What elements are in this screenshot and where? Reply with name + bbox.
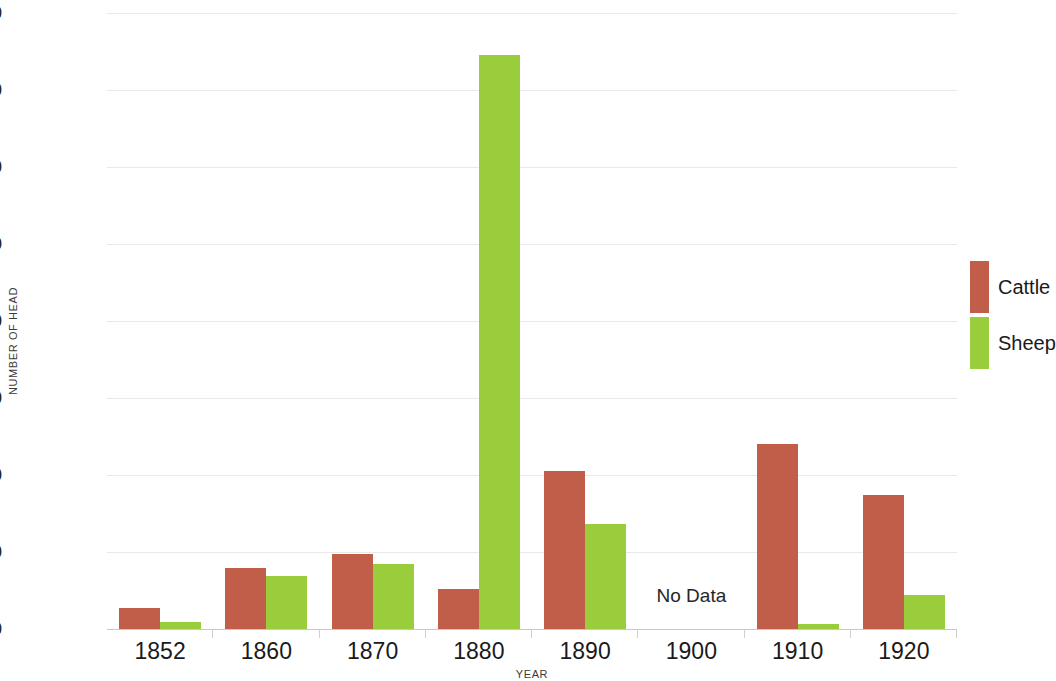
x-axis-label-1890: 1890: [532, 638, 638, 665]
legend-label-cattle: Cattle: [998, 276, 1050, 299]
bar-group: [532, 13, 638, 629]
x-axis-ticks: [107, 629, 957, 638]
x-axis-tick: [426, 629, 532, 638]
y-axis-tick-label: 40,000: [0, 464, 2, 486]
bar-group: [320, 13, 426, 629]
bar-group: [213, 13, 319, 629]
legend-swatch-cattle: [970, 261, 989, 313]
plot-area: 020,00040,00060,00080,000100,000120,0001…: [107, 13, 957, 629]
legend-item-cattle[interactable]: Cattle: [970, 259, 1047, 315]
x-axis-label-1920: 1920: [851, 638, 957, 665]
bar-sheep-1920: [904, 595, 945, 629]
bar-sheep-1890: [585, 524, 626, 629]
bar-cattle-1870: [332, 554, 373, 629]
bar-group: No Data: [638, 13, 744, 629]
bar-cattle-1880: [438, 589, 479, 629]
y-axis-tick-label: 0: [0, 618, 2, 640]
bar-group: [426, 13, 532, 629]
x-axis-label-1880: 1880: [426, 638, 532, 665]
bar-cattle-1890: [544, 471, 585, 629]
y-axis-tick-label: 120,000: [0, 156, 2, 178]
legend-item-sheep[interactable]: Sheep: [970, 315, 1047, 371]
bar-cattle-1852: [119, 608, 160, 629]
legend-swatch-sheep: [970, 317, 989, 369]
x-axis-tick: [638, 629, 744, 638]
y-axis-tick-label: 140,000: [0, 79, 2, 101]
x-axis-tick: [745, 629, 851, 638]
x-axis-label-1900: 1900: [638, 638, 744, 665]
y-axis-tick-label: 60,000: [0, 387, 2, 409]
y-axis-title-text: NUMBER OF HEAD: [7, 286, 19, 394]
x-axis-label-1910: 1910: [745, 638, 851, 665]
y-axis-tick-label: 80,000: [0, 310, 2, 332]
bar-group: [107, 13, 213, 629]
bar-sheep-1860: [266, 576, 307, 629]
legend-label-sheep: Sheep: [998, 332, 1056, 355]
x-axis-tick: [851, 629, 957, 638]
x-axis-title: YEAR: [107, 668, 957, 680]
x-axis-tick: [213, 629, 319, 638]
y-axis-tick-label: 100,000: [0, 233, 2, 255]
x-axis-label-1860: 1860: [213, 638, 319, 665]
bar-sheep-1880: [479, 55, 520, 629]
bar-sheep-1870: [373, 564, 414, 629]
y-axis-tick-label: 160,000: [0, 2, 2, 24]
x-axis-tick: [107, 629, 213, 638]
y-axis-title: NUMBER OF HEAD: [2, 0, 24, 681]
y-axis-tick-label: 20,000: [0, 541, 2, 563]
bar-cattle-1910: [757, 444, 798, 629]
bar-group: [851, 13, 957, 629]
x-axis-label-1870: 1870: [320, 638, 426, 665]
bar-cattle-1920: [863, 495, 904, 629]
legend: CattleSheep: [970, 259, 1047, 371]
x-axis-tick: [320, 629, 426, 638]
bar-group: [745, 13, 851, 629]
x-axis-labels: 18521860187018801890190019101920: [107, 638, 957, 665]
x-axis-label-1852: 1852: [107, 638, 213, 665]
bar-groups: No Data: [107, 13, 957, 629]
x-axis-tick: [532, 629, 638, 638]
bar-cattle-1860: [225, 568, 266, 629]
no-data-annotation: No Data: [657, 585, 727, 607]
